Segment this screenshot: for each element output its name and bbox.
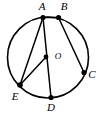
point-o-center-dot <box>44 55 49 60</box>
point-d-dot <box>48 95 53 100</box>
label-a: A <box>38 0 46 12</box>
label-d: D <box>46 101 55 113</box>
segment-a-e <box>20 18 43 86</box>
point-a-dot <box>40 15 45 20</box>
point-c-dot <box>81 70 86 75</box>
point-e-dot <box>17 82 23 88</box>
circle-diagram-svg: A B C D E O <box>0 0 100 115</box>
geometry-figure: A B C D E O <box>0 0 100 115</box>
segment-o-e <box>20 57 46 85</box>
label-e: E <box>11 90 19 102</box>
label-o: O <box>55 51 62 61</box>
point-b-dot <box>56 15 61 20</box>
segment-b-c <box>59 18 85 73</box>
label-c: C <box>88 68 96 80</box>
label-b: B <box>61 0 68 12</box>
